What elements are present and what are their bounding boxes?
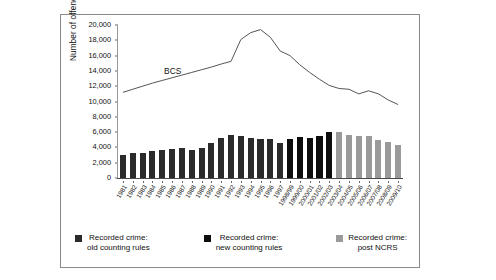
bar [307,138,313,178]
bar-slot [138,25,148,178]
bar-slot [206,25,216,178]
x-tick-mark [388,181,389,183]
bar [277,143,283,178]
legend-swatch-black-square [204,235,211,242]
bar-slot [246,25,256,178]
x-tick-mark [192,181,193,183]
y-tick-label: 0 [107,174,111,181]
chart-frame: Number of offences (000s) 02,0004,0006,0… [60,14,420,268]
y-tick-label: 18,000 [88,37,111,44]
bar-slot [216,25,226,178]
bar [120,155,126,178]
x-tick-slot: 1992 [226,181,236,225]
x-tick-mark [329,181,330,183]
bar [395,145,401,178]
x-tick-slot: 1981 [118,181,128,225]
bar-slot [167,25,177,178]
y-tick-label: 10,000 [88,98,111,105]
x-tick-mark [162,181,163,183]
bar [218,138,224,178]
legend-label: Recorded crime: post NCRS [348,233,407,253]
bar-slot [187,25,197,178]
bar [366,136,372,178]
x-tick-slot: 1991 [216,181,226,225]
bar [287,139,293,178]
x-tick-mark [211,181,212,183]
bar-slot [344,25,354,178]
x-tick-slot: 1987 [177,181,187,225]
bar [199,148,205,178]
bar [228,135,234,178]
bar-slot [128,25,138,178]
x-tick-mark [349,181,350,183]
x-tick-mark [152,181,153,183]
bar [257,139,263,178]
x-tick-mark [172,181,173,183]
bar-slot [147,25,157,178]
x-tick-slot: 1984 [147,181,157,225]
x-tick-mark [369,181,370,183]
x-tick-slot: 1985 [157,181,167,225]
y-tick-label: 6,000 [93,128,112,135]
y-axis-ticks: 02,0004,0006,0008,00010,00012,00014,0001… [81,25,115,179]
x-tick-mark [231,181,232,183]
x-tick-mark [300,181,301,183]
bar [189,150,195,178]
plot-area: Number of offences (000s) 02,0004,0006,0… [75,25,405,200]
x-tick-slot: 1983 [138,181,148,225]
bar [385,142,391,178]
x-tick-slot: 2009/10 [393,181,403,225]
x-tick-mark [270,181,271,183]
bar [267,139,273,178]
bar-slot [285,25,295,178]
y-tick-label: 2,000 [93,159,112,166]
x-tick-slot: 1990 [206,181,216,225]
bar-slot [393,25,403,178]
bar-slot [324,25,334,178]
x-tick-mark [182,181,183,183]
x-tick-mark [251,181,252,183]
x-tick-mark [202,181,203,183]
legend-label: Recorded crime: new counting rules [216,233,283,253]
x-tick-mark [280,181,281,183]
bar [140,153,146,178]
x-tick-mark [290,181,291,183]
bcs-annotation-label: BCS [164,66,181,76]
bar [336,132,342,178]
bar [346,135,352,178]
x-axis-line [117,178,403,179]
x-tick-mark [241,181,242,183]
x-tick-mark [123,181,124,183]
bar-slot [305,25,315,178]
x-tick-mark [398,181,399,183]
bar-slot [256,25,266,178]
bar [238,136,244,178]
bar-slot [275,25,285,178]
x-tick-mark [143,181,144,183]
x-tick-slot: 1996 [265,181,275,225]
legend-item: Recorded crime: new counting rules [204,233,283,253]
x-tick-mark [221,181,222,183]
legend-swatch-gray-square [336,235,343,242]
x-tick-mark [133,181,134,183]
bar-slot [226,25,236,178]
bar [326,132,332,178]
bar [179,148,185,178]
x-tick-mark [319,181,320,183]
x-tick-mark [359,181,360,183]
bar [297,137,303,178]
bar [149,151,155,178]
y-tick-label: 14,000 [88,67,111,74]
x-axis-labels: 1981198219831984198519861987198819891990… [118,181,403,225]
bar [130,153,136,178]
y-tick-label: 16,000 [88,52,111,59]
bar-slot [177,25,187,178]
legend-swatch-dark-square [75,235,82,242]
bar-slot [334,25,344,178]
x-tick-slot: 1993 [236,181,246,225]
x-tick-slot: 1994 [246,181,256,225]
y-tick-label: 4,000 [93,144,112,151]
bar [248,138,254,178]
bar-series-group [118,25,403,178]
y-tick-label: 20,000 [88,21,111,28]
